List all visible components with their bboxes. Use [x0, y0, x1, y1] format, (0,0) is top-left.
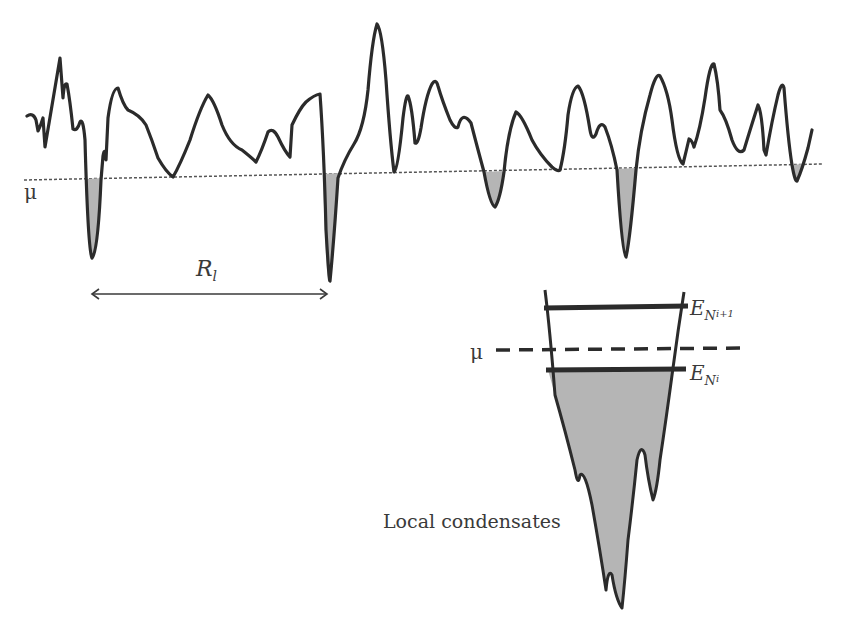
- chemical-potential-line: [24, 164, 823, 180]
- distance-label: Rl: [196, 256, 217, 284]
- upper-level-sub: N: [705, 308, 716, 323]
- upper-level-label: ENi+1: [690, 296, 734, 323]
- disorder-potential-curve: [27, 24, 812, 281]
- distance-label-subscript: l: [213, 268, 217, 284]
- lower-level-main: E: [690, 361, 705, 385]
- distance-arrow: [92, 289, 327, 299]
- condensate-fill-regions: [86, 164, 802, 281]
- upper-level-main: E: [690, 296, 705, 320]
- local-condensates-label: Local condensates: [383, 510, 561, 532]
- lower-level-label: ENi: [690, 361, 719, 388]
- distance-label-main: R: [196, 256, 213, 281]
- mu-label-well: μ: [470, 340, 483, 364]
- lower-level-subsub: i: [716, 373, 719, 384]
- mu-label-top: μ: [24, 180, 37, 204]
- energy-level-lower: [546, 369, 686, 370]
- upper-level-subsub: i+1: [716, 308, 734, 319]
- energy-level-upper: [544, 306, 688, 308]
- lower-level-sub: N: [705, 373, 716, 388]
- well-chemical-potential-line: [496, 348, 745, 350]
